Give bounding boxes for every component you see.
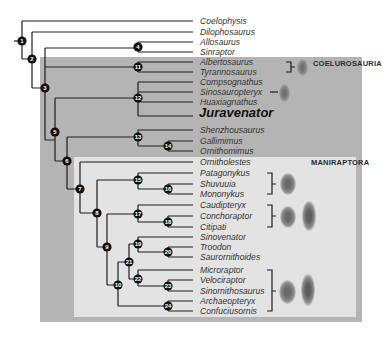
- svg-text:22: 22: [135, 276, 142, 282]
- node-11-icon: 11: [133, 62, 142, 71]
- taxon-label: Albertosaurus: [200, 57, 253, 67]
- node-22-icon: 22: [133, 274, 142, 283]
- taxon-label: Troodon: [200, 242, 231, 252]
- highlighted-taxon-label: Juravenator: [199, 108, 273, 118]
- node-4-icon: 4: [133, 42, 142, 51]
- node-6-icon: 6: [62, 156, 71, 165]
- svg-text:18: 18: [165, 219, 172, 225]
- taxon-label: Coelophysis: [200, 16, 247, 26]
- taxon-label: Sinovenator: [200, 232, 246, 242]
- node-15-icon: 15: [133, 175, 142, 184]
- taxon-label: Velociraptor: [200, 275, 246, 285]
- taxon-label: Patagonykus: [200, 168, 250, 178]
- taxon-label: Saurornithoides: [200, 252, 260, 262]
- filament-feather-icon: [280, 173, 296, 195]
- svg-text:20: 20: [165, 249, 172, 255]
- node-23-icon: 23: [163, 281, 172, 290]
- node-21-icon: 21: [124, 257, 133, 266]
- taxon-label: Sinornithosaurus: [200, 286, 265, 296]
- taxon-label: Conchoraptor: [200, 211, 252, 221]
- svg-text:14: 14: [165, 143, 172, 149]
- node-3-icon: 3: [40, 83, 49, 92]
- node-20-icon: 20: [163, 247, 172, 256]
- taxon-label: Ornitholestes: [200, 157, 251, 167]
- node-7-icon: 7: [75, 184, 84, 193]
- node-9-icon: 9: [102, 242, 111, 251]
- taxon-label: Compsognathus: [200, 77, 263, 87]
- node-2-icon: 2: [27, 54, 36, 63]
- taxon-label: Ornithomimus: [200, 146, 253, 156]
- svg-text:21: 21: [126, 259, 133, 265]
- node-12-icon: 12: [133, 93, 142, 102]
- svg-text:24: 24: [165, 303, 172, 309]
- svg-text:17: 17: [135, 211, 142, 217]
- svg-text:13: 13: [135, 134, 142, 140]
- node-5-icon: 5: [50, 127, 59, 136]
- node-1-icon: 1: [17, 36, 26, 45]
- taxon-label: Allosaurus: [200, 37, 240, 47]
- svg-text:19: 19: [135, 241, 142, 247]
- node-18-icon: 18: [163, 217, 172, 226]
- node-16-icon: 16: [163, 184, 172, 193]
- taxon-label: Dilophosaurus: [200, 27, 255, 37]
- taxon-label: Shuvuuia: [200, 179, 236, 189]
- svg-text:10: 10: [115, 282, 122, 288]
- taxon-label: Gallimimus: [200, 136, 243, 146]
- taxon-label: Shenzhousaurus: [200, 125, 265, 135]
- node-10-icon: 10: [113, 280, 122, 289]
- taxon-label: Archaeopteryx: [200, 296, 255, 306]
- node-13-icon: 13: [133, 132, 142, 141]
- node-19-icon: 19: [133, 239, 142, 248]
- vaned-feather-icon: [302, 201, 316, 231]
- filament-feather-icon: [279, 84, 290, 102]
- taxon-label: Caudipteryx: [200, 200, 246, 210]
- node-17-icon: 17: [133, 209, 142, 218]
- taxon-label: Microraptor: [200, 265, 243, 275]
- svg-text:11: 11: [135, 64, 142, 70]
- taxon-label: Citipati: [200, 222, 226, 232]
- taxon-label: Tyrannosaurus: [200, 67, 257, 77]
- node-8-icon: 8: [92, 208, 101, 217]
- node-14-icon: 14: [163, 141, 172, 150]
- taxon-label: Sinraptor: [200, 47, 235, 57]
- filament-feather-icon: [297, 59, 308, 76]
- svg-text:23: 23: [165, 283, 172, 289]
- svg-text:15: 15: [135, 177, 142, 183]
- taxon-label: Mononykus: [200, 189, 244, 199]
- filament-feather-icon: [280, 206, 296, 228]
- node-24-icon: 24: [163, 301, 172, 310]
- filament-feather-icon: [279, 280, 296, 304]
- taxon-label: Sinosauropteryx: [200, 87, 262, 97]
- svg-text:16: 16: [165, 186, 172, 192]
- taxon-label: Confuciusornis: [200, 306, 257, 316]
- vaned-feather-icon: [301, 274, 315, 306]
- svg-text:12: 12: [135, 95, 142, 101]
